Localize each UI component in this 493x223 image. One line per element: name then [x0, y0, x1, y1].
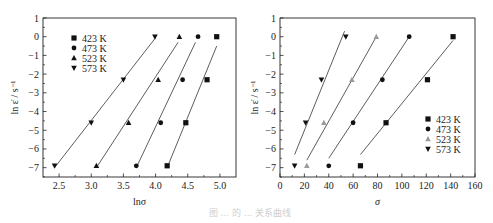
y-axis-label: ln ε̇ / s⁻¹	[249, 80, 260, 114]
data-point	[343, 35, 349, 40]
legend: 423 K473 K523 K573 K	[71, 33, 107, 74]
data-point	[351, 120, 356, 125]
data-point	[407, 34, 412, 39]
y-tick-label: −3	[265, 87, 276, 98]
data-point	[321, 120, 327, 125]
data-point	[126, 120, 132, 125]
x-axis-label: σ	[375, 196, 381, 207]
y-tick-label: −5	[28, 125, 39, 136]
data-point	[319, 78, 325, 83]
data-point	[155, 77, 161, 82]
series-473K	[326, 34, 411, 168]
x-tick-label: 4.5	[182, 180, 195, 191]
x-axis: 2.53.03.54.04.55.0	[53, 174, 226, 192]
y-tick-label: −1	[28, 50, 39, 61]
data-point	[383, 120, 388, 125]
x-tick-label: 60	[348, 180, 358, 191]
series-523K	[304, 34, 379, 168]
legend-marker	[426, 127, 431, 132]
figure-caption: 图 ... 的 ... 关系曲线	[150, 206, 350, 223]
legend-marker	[71, 35, 76, 40]
data-point	[183, 120, 188, 125]
x-tick-label: 80	[373, 180, 383, 191]
data-point	[425, 77, 430, 82]
y-tick-label: 1	[271, 13, 276, 24]
data-point	[358, 163, 363, 168]
data-point	[349, 77, 355, 82]
legend-label: 573 K	[436, 144, 462, 155]
x-tick-label: 3.5	[117, 180, 130, 191]
data-point	[450, 34, 455, 39]
x-tick-label: 0	[278, 180, 283, 191]
legend: 423 K473 K523 K573 K	[425, 114, 461, 155]
data-point	[373, 34, 379, 39]
fit-line	[329, 37, 409, 159]
legend-label: 573 K	[82, 63, 108, 74]
x-axis: 020406080100120140160	[278, 174, 483, 192]
y-tick-label: 0	[271, 31, 276, 42]
y-tick-label: −1	[265, 50, 276, 61]
figure: 2.53.03.54.04.55.010−1−2−3−4−5−6−7lnσln …	[0, 0, 493, 223]
data-point	[196, 34, 201, 39]
y-tick-label: 1	[34, 13, 39, 24]
fit-line	[295, 31, 345, 154]
y-tick-label: −3	[28, 87, 39, 98]
data-point	[180, 77, 185, 82]
x-tick-label: 140	[443, 180, 458, 191]
y-tick-label: −5	[265, 125, 276, 136]
legend-marker	[71, 66, 77, 71]
x-tick-label: 5.0	[214, 180, 227, 191]
legend-marker	[72, 46, 77, 51]
chart-sigma: 02040608010012014016010−1−2−3−4−5−6−7σln…	[249, 13, 483, 208]
data-point	[380, 77, 385, 82]
legend-marker	[425, 136, 431, 141]
y-tick-label: −4	[265, 106, 276, 117]
y-tick-label: −7	[28, 162, 39, 173]
x-tick-label: 160	[468, 180, 483, 191]
data-point	[304, 163, 310, 168]
data-point	[214, 34, 219, 39]
data-point	[158, 120, 163, 125]
y-tick-label: 0	[34, 31, 39, 42]
series-423K	[165, 34, 220, 168]
x-tick-label: 20	[299, 180, 309, 191]
data-point	[94, 163, 100, 168]
y-tick-label: −6	[28, 143, 39, 154]
data-point	[204, 77, 209, 82]
data-point	[292, 164, 298, 169]
legend-marker	[425, 147, 431, 152]
y-axis: 10−1−2−3−4−5−6−7	[28, 13, 46, 178]
plot-frame	[43, 18, 236, 177]
series-573K	[292, 31, 349, 169]
x-tick-label: 2.5	[53, 180, 66, 191]
x-tick-label: 100	[394, 180, 409, 191]
data-point	[152, 35, 158, 40]
y-axis: 10−1−2−3−4−5−6−7	[265, 13, 283, 178]
series-473K	[134, 34, 201, 168]
x-tick-label: 120	[419, 180, 434, 191]
y-tick-label: −2	[28, 69, 39, 80]
x-tick-label: 3.0	[85, 180, 98, 191]
data-point	[326, 163, 331, 168]
data-point	[177, 34, 183, 39]
x-axis-label: lnσ	[133, 196, 147, 207]
data-point	[52, 164, 58, 169]
y-tick-label: −2	[265, 69, 276, 80]
data-point	[165, 163, 170, 168]
y-tick-label: −4	[28, 106, 39, 117]
x-tick-label: 40	[324, 180, 334, 191]
fit-line	[167, 46, 217, 168]
y-tick-label: −6	[265, 143, 276, 154]
y-axis-label: ln ε̇ / s⁻¹	[9, 80, 20, 114]
data-point	[134, 163, 139, 168]
legend-marker	[425, 116, 430, 121]
chart-ln-sigma: 2.53.03.54.04.55.010−1−2−3−4−5−6−7lnσln …	[9, 13, 236, 208]
x-tick-label: 4.0	[149, 180, 162, 191]
legend-marker	[71, 55, 77, 60]
y-tick-label: −7	[265, 162, 276, 173]
